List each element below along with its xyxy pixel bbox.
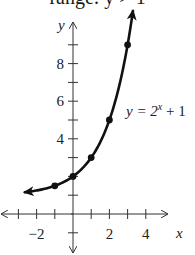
y-axis-label: y — [56, 17, 65, 33]
x-tick-label: 2 — [106, 226, 114, 242]
function-label-rhs: + 1 — [162, 103, 185, 119]
exponential-graph: −224468 x y y = 2x + 1 — [0, 0, 195, 255]
function-curve — [73, 10, 133, 176]
y-tick-label: 6 — [57, 93, 65, 109]
ticks — [18, 45, 145, 233]
data-point — [70, 173, 77, 180]
x-tick-label: −2 — [29, 226, 45, 242]
data-point — [51, 182, 58, 189]
data-point — [124, 41, 131, 48]
data-point — [88, 154, 95, 161]
function-label-lhs: y = 2 — [124, 103, 158, 119]
x-tick-label: 4 — [142, 226, 150, 242]
function-curve-left — [24, 176, 73, 192]
data-point — [106, 117, 113, 124]
function-label: y = 2x + 1 — [124, 101, 186, 119]
y-tick-label: 8 — [57, 56, 65, 72]
axes — [1, 22, 168, 253]
y-tick-label: 4 — [57, 131, 65, 147]
x-axis-label: x — [175, 225, 183, 241]
